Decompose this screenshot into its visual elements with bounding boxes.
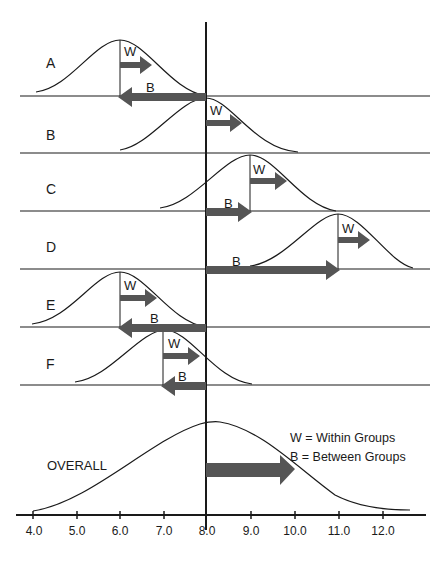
b-arrow-e <box>118 318 206 338</box>
w-text-d: W <box>342 221 355 236</box>
tick-9: 9.0 <box>243 524 260 538</box>
b-arrow-d <box>206 260 340 280</box>
anova-diagram: A B C D E F OVERALL W B W W B W B W B W … <box>0 0 444 571</box>
curve-e <box>32 272 206 327</box>
curve-c <box>160 155 336 211</box>
between-arrows <box>118 87 340 485</box>
b-text-e: B <box>150 311 159 326</box>
x-axis: 4.0 5.0 6.0 7.0 8.0 9.0 10.0 11.0 12.0 <box>16 511 426 538</box>
tick-7: 7.0 <box>156 524 173 538</box>
w-text-e: W <box>124 278 137 293</box>
tick-5: 5.0 <box>69 524 86 538</box>
tick-10: 10.0 <box>283 524 307 538</box>
label-e: E <box>46 297 55 313</box>
tick-8: 8.0 <box>199 524 216 538</box>
legend: W = Within Groups B = Between Groups <box>290 431 406 464</box>
tick-6: 6.0 <box>112 524 129 538</box>
w-text-f: W <box>168 336 181 351</box>
label-d: D <box>46 239 56 255</box>
legend-within: W = Within Groups <box>290 431 395 445</box>
legend-between: B = Between Groups <box>290 450 406 464</box>
b-text-a: B <box>146 80 155 95</box>
curve-d <box>250 214 413 268</box>
label-f: F <box>46 356 55 372</box>
w-text-c: W <box>253 162 266 177</box>
b-text-d: B <box>232 254 241 269</box>
tick-11: 11.0 <box>328 524 351 538</box>
label-b: B <box>46 127 55 143</box>
tick-4: 4.0 <box>26 524 43 538</box>
row-labels: A B C D E F OVERALL <box>46 55 107 473</box>
b-text-c: B <box>224 196 233 211</box>
label-a: A <box>46 55 56 71</box>
tick-12: 12.0 <box>371 524 395 538</box>
w-text-a: W <box>124 44 137 59</box>
w-text-b: W <box>210 103 223 118</box>
b-text-f: B <box>178 369 187 384</box>
label-c: C <box>46 181 56 197</box>
overall-arrow <box>206 455 295 485</box>
b-arrow-a <box>118 87 206 107</box>
label-overall: OVERALL <box>47 458 107 473</box>
